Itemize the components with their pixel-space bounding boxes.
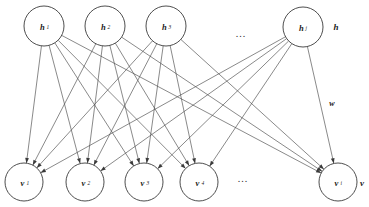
arrowhead-h1-v3 (129, 161, 133, 166)
nodes-group: h1h2h3hjv1v2v3v4vi (5, 6, 357, 201)
arrowhead-h2-v1 (33, 160, 37, 165)
edge-h3-v1 (37, 41, 153, 168)
edge-h2-v1 (33, 44, 96, 165)
node-subscript-h3: 3 (167, 24, 171, 30)
arrowhead-h2-v4 (185, 160, 189, 165)
hidden-ellipsis: ... (236, 28, 247, 39)
edge-h3-v3 (147, 46, 164, 163)
node-subscript-v3: 3 (145, 180, 149, 186)
node-subscript-v4: 4 (201, 180, 204, 186)
node-h1[interactable]: h1 (24, 6, 64, 46)
edge-hj-v4 (210, 44, 292, 167)
arrowhead-h2-v3 (136, 158, 140, 164)
arrowhead-h2-v2 (86, 158, 90, 163)
arrowhead-h3-v4 (192, 158, 196, 163)
weight-label: w (329, 99, 335, 108)
edge-h3-vi (181, 39, 324, 169)
node-subscript-v2: 2 (87, 180, 90, 186)
edges-group (25, 35, 334, 173)
node-label-vi: v (335, 178, 339, 188)
arrowhead-h1-v1 (25, 158, 29, 163)
node-v4[interactable]: v4 (180, 163, 218, 201)
visible-ellipsis: ... (238, 173, 249, 184)
node-label-v4: v (196, 178, 200, 188)
edge-h2-vi (122, 37, 323, 171)
edge-hj-v1 (41, 37, 286, 173)
node-label-v2: v (82, 178, 86, 188)
edge-hj-v2 (100, 39, 286, 171)
node-label-v3: v (141, 178, 145, 188)
edge-hj-v3 (158, 41, 289, 169)
node-v3[interactable]: v3 (125, 163, 163, 201)
arrowhead-hj-v4 (210, 161, 214, 166)
node-v2[interactable]: v2 (66, 163, 104, 201)
node-hj[interactable]: hj (283, 7, 323, 47)
node-vi[interactable]: vi (319, 163, 357, 201)
rbm-diagram-canvas: h1h2h3hjv1v2v3v4vi h v w ... ... (0, 0, 369, 207)
arrowhead-hj-v2 (100, 166, 105, 171)
node-label-h2: h (101, 22, 106, 32)
arrowhead-hj-v1 (41, 169, 46, 173)
rbm-graph-svg: h1h2h3hjv1v2v3v4vi h v w ... ... (0, 0, 369, 207)
node-subscript-h2: 2 (107, 24, 110, 30)
arrowhead-h3-v3 (145, 158, 149, 163)
arrowhead-hj-vi (331, 158, 335, 163)
edge-h2-v3 (110, 45, 140, 163)
edge-h1-v4 (58, 40, 186, 168)
node-subscript-h1: 1 (46, 24, 49, 30)
node-v1[interactable]: v1 (5, 163, 43, 201)
node-h3[interactable]: h3 (146, 6, 186, 46)
edge-h1-v2 (49, 45, 80, 163)
arrowhead-h3-v2 (94, 160, 98, 165)
edge-h1-v1 (26, 46, 41, 163)
node-label-h3: h (162, 22, 167, 32)
node-label-v1: v (21, 178, 25, 188)
node-subscript-v1: 1 (26, 180, 29, 186)
edge-h3-v2 (94, 44, 157, 165)
node-h2[interactable]: h2 (85, 6, 125, 46)
visible-layer-label: v (360, 178, 365, 188)
hidden-layer-label: h (333, 22, 338, 32)
edge-h2-v4 (115, 43, 189, 166)
node-label-hj: h (299, 23, 304, 33)
node-label-h1: h (40, 22, 45, 32)
arrowhead-h1-v2 (77, 158, 81, 164)
